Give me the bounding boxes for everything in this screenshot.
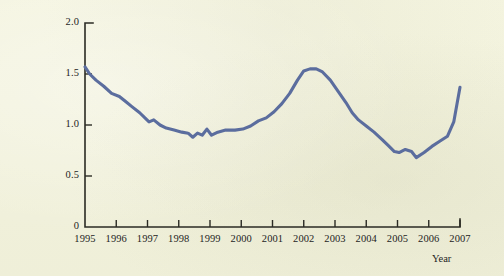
x-axis-title: Year <box>432 253 451 264</box>
y-axis-tick-label: 0.5 <box>35 169 79 180</box>
chart-figure: 00.51.01.52.0 19951996199719981999200020… <box>0 0 504 276</box>
y-axis-tick-marks <box>85 74 92 176</box>
y-axis-tick-label: 1.5 <box>35 67 79 78</box>
x-axis-tick-marks <box>116 220 460 227</box>
data-series-group <box>85 67 460 158</box>
x-axis-tick-label: 2007 <box>440 233 480 244</box>
y-axis-tick-label: 0 <box>35 220 79 231</box>
axis-lines <box>85 23 460 227</box>
data-line-series-1 <box>85 67 460 158</box>
y-axis-tick-label: 1.0 <box>35 118 79 129</box>
y-axis-tick-label: 2.0 <box>35 16 79 27</box>
axes-group <box>85 23 460 227</box>
